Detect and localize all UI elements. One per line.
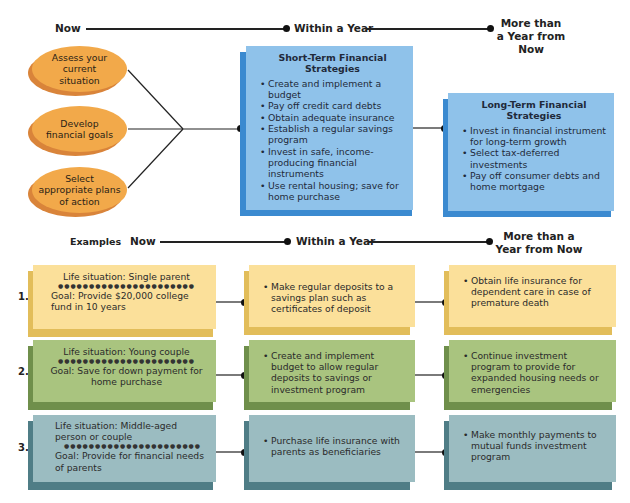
list-item: Establish a regular savings program — [260, 123, 405, 146]
within-year-text: Purchase life insurance with parents as … — [263, 435, 407, 457]
long-term-list: Invest in financial instrument for long-… — [462, 125, 606, 193]
within-year-box: Create and implement budget to allow reg… — [244, 340, 416, 410]
timeline-line — [368, 241, 488, 243]
timeline-dot — [284, 238, 291, 245]
list-item: Pay off credit card debts — [260, 100, 405, 111]
long-term-box: Obtain life insurance for dependent care… — [444, 265, 616, 337]
long-term-text: Continue investment program to provide f… — [463, 350, 608, 395]
life-situation-text: Life situation: Young couple — [43, 346, 210, 357]
list-item: Obtain adequate insurance — [260, 112, 405, 123]
life-situation-text: Life situation: Single parent — [43, 271, 210, 282]
long-term-box: Continue investment program to provide f… — [444, 340, 616, 410]
long-term-text: Make monthly payments to mutual funds in… — [463, 429, 608, 463]
timeline-dot — [486, 238, 493, 245]
long-term-box: Make monthly payments to mutual funds in… — [444, 415, 616, 490]
timeline-now-label: Now — [130, 235, 156, 247]
timeline-line — [160, 241, 287, 243]
goal-text: Goal: Provide for financial needs of par… — [55, 450, 210, 472]
goal-text: Goal: Save for down payment for home pur… — [43, 365, 210, 387]
short-term-title: Short-Term Financial Strategies — [260, 52, 405, 75]
long-term-text: Obtain life insurance for dependent care… — [463, 275, 608, 309]
list-item: Select tax-deferred investments — [462, 147, 606, 170]
list-item: Invest in safe, income-producing financi… — [260, 146, 405, 180]
short-term-list: Create and implement a budget Pay off cr… — [260, 78, 405, 203]
list-item: Pay off consumer debts and home mortgage — [462, 170, 606, 193]
long-term-strategies-box: Long-Term Financial Strategies Invest in… — [443, 93, 615, 217]
dotted-separator: ●●●●●●●●●●●●●●●●●●●●●● — [43, 282, 210, 290]
timeline-more-than-year-label: More than a Year from Now — [494, 230, 584, 256]
within-year-box: Make regular deposits to a savings plan … — [244, 265, 416, 337]
timeline-within-year-label: Within a Year — [296, 235, 375, 247]
list-item: Invest in financial instrument for long-… — [462, 125, 606, 148]
examples-label: Examples — [70, 236, 121, 247]
short-term-strategies-box: Short-Term Financial Strategies Create a… — [240, 46, 414, 216]
long-term-title: Long-Term Financial Strategies — [462, 99, 606, 122]
dotted-separator: ●●●●●●●●●●●●●●●●●●●●●● — [43, 357, 210, 365]
list-item: Create and implement a budget — [260, 78, 405, 101]
within-year-box: Purchase life insurance with parents as … — [244, 415, 416, 490]
life-situation-box: Life situation: Single parent ●●●●●●●●●●… — [28, 265, 216, 337]
life-situation-text: Life situation: Middle-aged person or co… — [55, 420, 210, 442]
life-situation-box: Life situation: Middle-aged person or co… — [28, 415, 216, 490]
within-year-text: Create and implement budget to allow reg… — [263, 350, 407, 395]
dotted-separator: ●●●●●●●●●●●●●●●●●●●●●● — [55, 442, 210, 450]
goal-text: Goal: Provide $20,000 college fund in 10… — [43, 290, 210, 312]
list-item: Use rental housing; save for home purcha… — [260, 180, 405, 203]
within-year-text: Make regular deposits to a savings plan … — [263, 281, 407, 315]
life-situation-box: Life situation: Young couple ●●●●●●●●●●●… — [28, 340, 216, 410]
